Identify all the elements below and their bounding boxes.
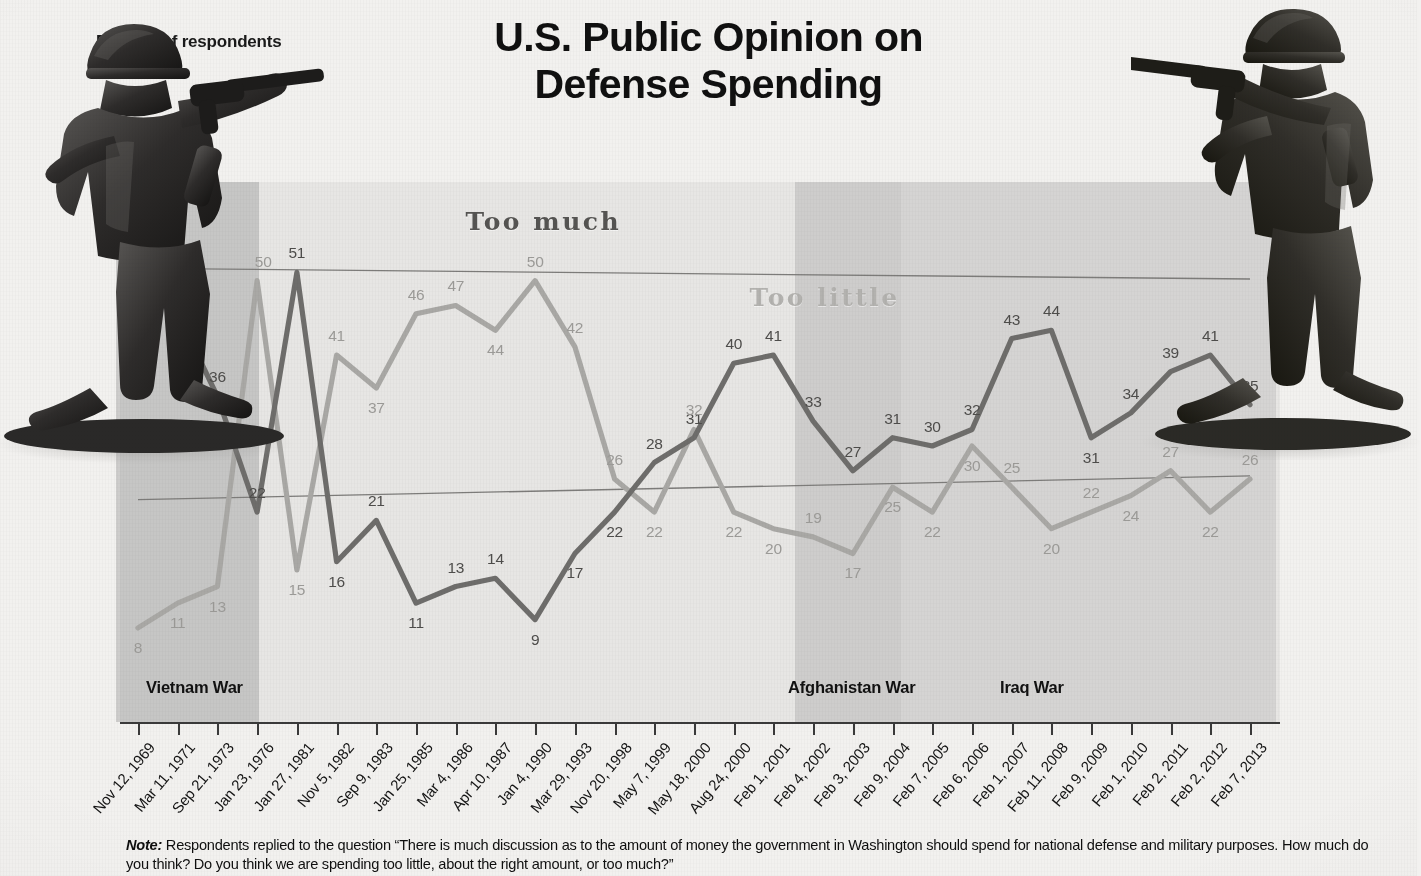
data-label: 15 [289,581,306,599]
x-axis-tick [456,722,458,735]
x-axis-tick [932,722,934,735]
data-label: 22 [1083,484,1100,502]
data-label: 22 [606,523,623,541]
data-label: 43 [1003,311,1020,329]
data-label: 9 [531,631,539,649]
data-label: 22 [924,523,941,541]
x-axis-tick [1171,722,1173,735]
data-label: 17 [567,564,584,582]
data-label: 30 [924,418,941,436]
x-axis-tick [654,722,656,735]
data-label: 16 [328,573,345,591]
baseline-guide-much [138,268,1250,279]
data-label: 11 [170,614,186,632]
data-label: 17 [845,564,862,582]
data-label: 35 [1242,377,1259,395]
title-line-2: Defense Spending [0,61,1417,108]
data-label: 28 [646,435,663,453]
data-label: 37 [368,399,385,417]
data-label: 25 [1003,459,1020,477]
series-label-too-little: Too little [749,283,899,312]
x-axis-tick [138,722,140,735]
data-label: 25 [884,498,901,516]
data-label: 36 [209,368,226,386]
x-axis-tick [615,722,617,735]
war-label-afghanistan: Afghanistan War [788,678,915,697]
x-axis-tick [1012,722,1014,735]
x-axis: Nov 12, 1969Mar 11, 1971Sep 21, 1973Jan … [120,722,1280,723]
data-label: 26 [1242,451,1259,469]
x-axis-tick [773,722,775,735]
data-label: 19 [805,509,822,527]
data-label: 42 [567,319,584,337]
x-axis-tick [495,722,497,735]
chart-lines [120,182,1280,722]
x-axis-tick [257,722,259,735]
data-label: 47 [447,277,464,295]
x-axis-tick [1131,722,1133,735]
data-label: 40 [725,335,742,353]
data-label: 39 [1162,344,1179,362]
data-label: 50 [527,253,544,271]
data-label: 27 [845,443,862,461]
data-label: 30 [964,457,981,475]
data-label: 20 [765,540,782,558]
data-label: 34 [1123,385,1140,403]
data-label: 44 [1043,302,1060,320]
x-axis-tick [813,722,815,735]
data-label: 33 [805,393,822,411]
title-line-1: U.S. Public Opinion on [0,14,1417,61]
data-label: 52 [136,236,153,254]
footnote: Note: Respondents replied to the questio… [126,836,1377,875]
x-axis-tick [297,722,299,735]
chart-plot-area: 5246362251162111131491722283140413327313… [120,182,1280,722]
data-label: 51 [289,244,306,262]
data-label: 22 [646,523,663,541]
x-axis-tick [694,722,696,735]
series-line-too-much [138,264,1250,619]
data-label: 13 [447,559,464,577]
footnote-line-1: Respondents replied to the question “The… [166,837,1137,853]
data-label: 46 [408,286,425,304]
x-axis-tick [575,722,577,735]
data-label: 32 [964,401,981,419]
data-label: 24 [1123,507,1140,525]
x-axis-tick [1210,722,1212,735]
data-label: 8 [134,639,142,657]
x-axis-tick [535,722,537,735]
war-label-vietnam: Vietnam War [146,678,243,697]
x-axis-tick [337,722,339,735]
x-axis-tick [734,722,736,735]
data-label: 41 [765,327,782,345]
data-label: 44 [487,341,504,359]
data-label: 11 [408,614,424,632]
x-axis-tick [217,722,219,735]
war-label-iraq: Iraq War [1000,678,1064,697]
x-axis-tick [416,722,418,735]
data-label: 32 [686,401,703,419]
footnote-prefix: Note: [126,837,162,853]
data-label: 41 [1202,327,1219,345]
data-label: 22 [249,484,266,502]
data-label: 21 [368,492,385,510]
data-label: 31 [884,410,901,428]
x-axis-tick [1051,722,1053,735]
x-axis-tick [853,722,855,735]
data-label: 22 [725,523,742,541]
data-label: 46 [169,286,186,304]
data-label: 22 [1202,523,1219,541]
x-axis-tick [376,722,378,735]
x-axis-tick [178,722,180,735]
data-label: 13 [209,598,226,616]
x-axis-tick [1091,722,1093,735]
data-label: 14 [487,550,504,568]
x-axis-tick [972,722,974,735]
data-label: 27 [1162,443,1179,461]
x-axis-tick [893,722,895,735]
data-label: 50 [255,253,272,271]
x-axis-line [120,722,1280,724]
data-label: 31 [1083,449,1100,467]
data-label: 20 [1043,540,1060,558]
page-title: U.S. Public Opinion on Defense Spending [0,14,1417,107]
